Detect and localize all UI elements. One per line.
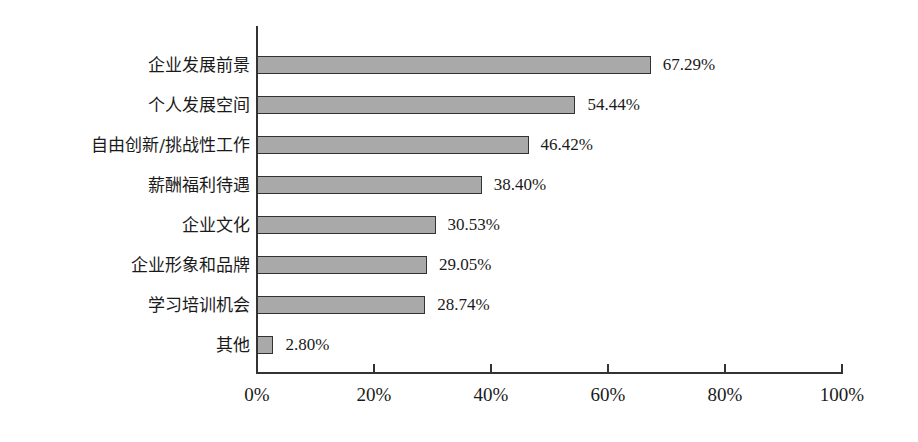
x-tick bbox=[724, 364, 726, 373]
value-label: 67.29% bbox=[663, 55, 715, 75]
value-label: 30.53% bbox=[448, 215, 500, 235]
category-label: 其他 bbox=[216, 335, 250, 355]
horizontal-bar-chart: 企业发展前景 个人发展空间 自由创新/挑战性工作 薪酬福利待遇 企业文化 企业形… bbox=[0, 0, 918, 442]
category-label: 企业发展前景 bbox=[148, 55, 250, 75]
category-label: 学习培训机会 bbox=[148, 295, 250, 315]
x-tick bbox=[256, 364, 258, 373]
x-tick-label: 0% bbox=[244, 384, 269, 406]
value-label: 29.05% bbox=[439, 255, 491, 275]
bar bbox=[257, 176, 482, 194]
bar bbox=[257, 96, 575, 114]
category-label: 个人发展空间 bbox=[148, 95, 250, 115]
x-tick bbox=[373, 364, 375, 373]
x-axis-line bbox=[256, 372, 843, 374]
x-tick bbox=[607, 364, 609, 373]
x-tick-label: 100% bbox=[820, 384, 864, 406]
x-tick-label: 20% bbox=[357, 384, 392, 406]
bar bbox=[257, 296, 425, 314]
bar bbox=[257, 136, 529, 154]
bar bbox=[257, 216, 436, 234]
category-label: 薪酬福利待遇 bbox=[148, 175, 250, 195]
bar bbox=[257, 56, 651, 74]
bar bbox=[257, 256, 427, 274]
value-label: 46.42% bbox=[541, 135, 593, 155]
x-tick bbox=[490, 364, 492, 373]
category-label: 企业形象和品牌 bbox=[131, 255, 250, 275]
y-axis-line bbox=[256, 26, 258, 373]
x-tick-label: 40% bbox=[474, 384, 509, 406]
x-tick bbox=[841, 364, 843, 373]
category-label: 自由创新/挑战性工作 bbox=[91, 135, 250, 155]
x-tick-label: 80% bbox=[708, 384, 743, 406]
value-label: 38.40% bbox=[494, 175, 546, 195]
x-tick-label: 60% bbox=[591, 384, 626, 406]
value-label: 54.44% bbox=[587, 95, 639, 115]
value-label: 28.74% bbox=[437, 295, 489, 315]
value-label: 2.80% bbox=[285, 335, 329, 355]
bar bbox=[257, 336, 273, 354]
category-label: 企业文化 bbox=[182, 215, 250, 235]
